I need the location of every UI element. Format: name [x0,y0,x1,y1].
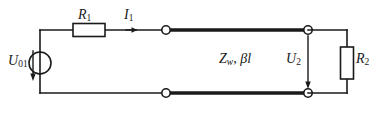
label-u01: U01 [8,54,28,70]
label-i1: I1 [124,8,133,24]
resistor-r2-body [341,47,354,79]
resistor-r1-body [73,24,105,37]
voltage-arrow-u01-head [30,74,35,82]
circuit-svg [0,0,376,113]
current-arrow-i1-head [132,27,138,32]
circuit-diagram: R1 I1 U01 Zw, βl U2 R2 [0,0,376,113]
label-zw-betal: Zw, βl [219,52,251,68]
terminal-input-top [162,26,170,34]
label-u2: U2 [286,52,301,68]
label-r1: R1 [78,8,91,24]
label-r2: R2 [356,52,369,68]
terminal-input-bottom [162,89,170,97]
voltage-arrow-u2-head [305,82,310,90]
